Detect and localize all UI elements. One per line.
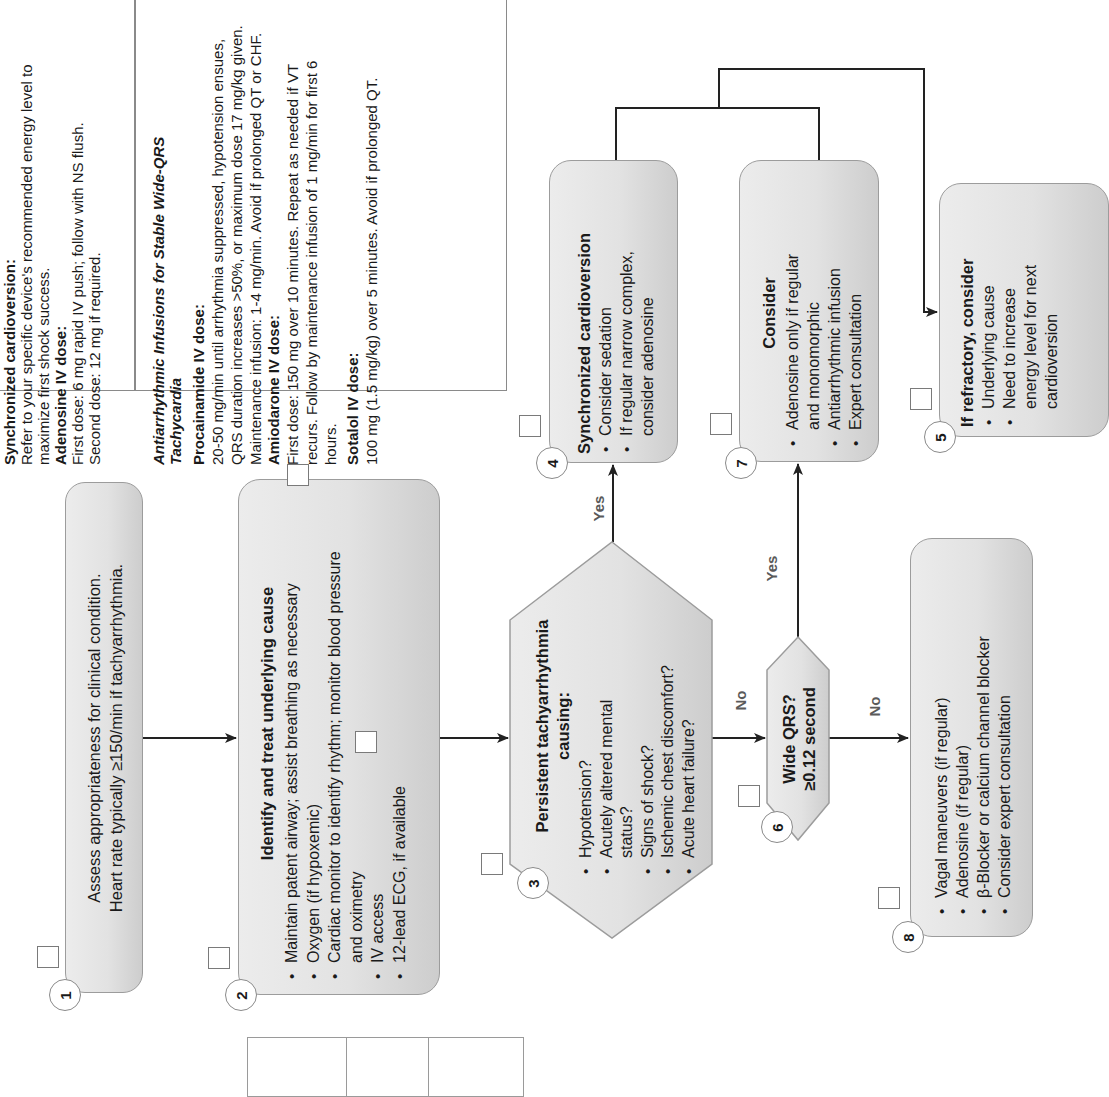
node-4-checkbox[interactable] (519, 415, 541, 437)
edge-label-no-3-6: No (732, 691, 749, 711)
node-3-item: Acutely altered mental status? (597, 668, 638, 858)
node-4-number: 4 (536, 447, 568, 479)
node-3-title: Persistent tachyarrhythmia causing: (532, 601, 574, 851)
node-3-item: Ischemic chest discomfort? (658, 576, 679, 858)
node-6-title-2: ≥0.12 second (799, 687, 819, 791)
node-5-list: Underlying cause Need to increase energy… (978, 187, 1062, 427)
node-7-title: Consider (759, 178, 780, 448)
node-6-checkbox[interactable] (738, 785, 760, 807)
table-cell (428, 1037, 524, 1097)
edge-label-yes-6-7: Yes (763, 556, 780, 582)
node-8-item: β-Blocker or calcium channel blocker (973, 546, 994, 898)
node-5-item: Underlying cause (978, 187, 999, 409)
table-cell (247, 1037, 347, 1097)
node-3-checkbox[interactable] (481, 853, 503, 875)
node-6-title-1: Wide QRS? (779, 694, 799, 784)
node-7-item: Antiarrhythmic infusion (824, 178, 845, 430)
node-3-item: Signs of shock? (638, 576, 659, 858)
node-6-number: 6 (761, 811, 793, 843)
node-7-checkbox[interactable] (710, 413, 732, 435)
node-5-title: If refractory, consider (957, 187, 978, 427)
node-5-number: 5 (924, 421, 956, 453)
node-4-title: Synchronized cardioversion (574, 169, 595, 454)
node-8-list: Vagal maneuvers (if regular) Adenosine (… (931, 546, 1015, 916)
edge-label-no-6-8: No (866, 697, 883, 717)
node-7-number: 7 (725, 447, 757, 479)
node-3-list: Hypotension? Acutely altered mental stat… (576, 576, 699, 876)
node-4-item: If regular narrow complex, consider aden… (616, 216, 658, 436)
node-3-item: Acute heart failure? (679, 576, 700, 858)
node-7-item: Expert consultation (845, 178, 866, 430)
node-8-item: Vagal maneuvers (if regular) (931, 546, 952, 898)
node-5-checkbox[interactable] (910, 388, 932, 410)
node-3-number: 3 (517, 867, 549, 899)
node-8-item: Adenosine (if regular) (952, 546, 973, 898)
edge-label-yes-3-4: Yes (590, 496, 607, 522)
node-4-item: Consider sedation (595, 169, 616, 436)
node-3-item: Hypotension? (576, 576, 597, 858)
node-8-item: Consider expert consultation (994, 546, 1015, 898)
node-7-list: Adenosine only if regular and monomorphi… (782, 178, 866, 448)
node-7-item: Adenosine only if regular and monomorphi… (782, 240, 824, 430)
node-4-list: Consider sedation If regular narrow comp… (595, 169, 658, 454)
node-5-item: Need to increase energy level for next c… (999, 249, 1062, 409)
table-cell (346, 1037, 429, 1097)
node-8-checkbox[interactable] (878, 887, 900, 909)
node-8-number: 8 (892, 921, 924, 953)
